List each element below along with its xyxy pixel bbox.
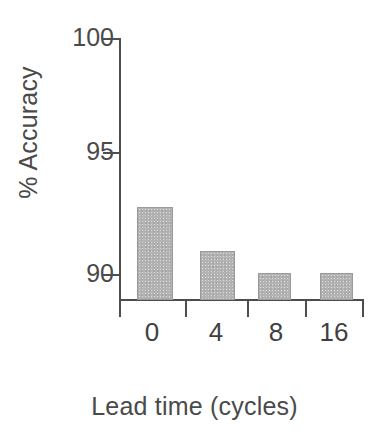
x-tick-label-0: 0	[117, 318, 187, 347]
y-tick-mark-95	[103, 152, 120, 154]
x-tick-label-16: 16	[299, 318, 369, 347]
y-tick-mark-90	[103, 274, 120, 276]
x-tick-mark-1	[185, 301, 187, 317]
plot-area: 100 95 90 0 4 8 16	[0, 0, 389, 360]
x-axis-title: Lead time (cycles)	[0, 392, 389, 421]
x-tick-mark-2	[247, 301, 249, 317]
bar-lead-time-16	[320, 273, 353, 300]
bar-lead-time-4	[200, 251, 235, 300]
x-tick-mark-0	[119, 301, 121, 317]
bar-lead-time-0	[137, 207, 173, 300]
bar-lead-time-8	[258, 273, 291, 300]
bar-chart-figure: % Accuracy 100 95 90 0 4 8 16 Lead time …	[0, 0, 389, 434]
x-tick-mark-4	[362, 301, 364, 317]
y-tick-mark-100	[103, 38, 120, 40]
x-tick-mark-3	[305, 301, 307, 317]
y-axis-spine	[119, 38, 121, 302]
